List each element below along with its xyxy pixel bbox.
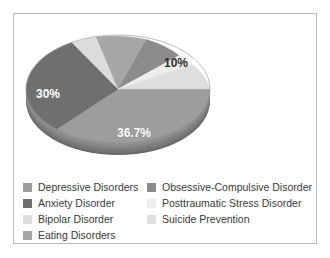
legend-item-eating-disorders[interactable]: Eating Disorders xyxy=(23,228,138,242)
legend-label: Eating Disorders xyxy=(38,230,116,241)
slice-label-anxiety-disorder: 30% xyxy=(36,87,60,101)
slice-label-depressive-disorders: 36.7% xyxy=(117,126,151,140)
legend-swatch-icon xyxy=(147,215,156,224)
legend-label: Depressive Disorders xyxy=(38,182,138,193)
legend-item-posttraumatic-stress-disorder[interactable]: Posttraumatic Stress Disorder xyxy=(147,196,312,210)
legend-swatch-icon xyxy=(23,183,32,192)
legend-swatch-icon xyxy=(147,183,156,192)
legend-label: Anxiety Disorder xyxy=(38,198,115,209)
legend-item-suicide-prevention[interactable]: Suicide Prevention xyxy=(147,212,312,226)
chart-frame: 10% 30% 36.7% Depressive Disorders Anxie… xyxy=(13,13,317,244)
legend-swatch-icon xyxy=(23,215,32,224)
legend-column-right: Obsessive-Compulsive Disorder Posttrauma… xyxy=(147,180,312,228)
legend-item-depressive-disorders[interactable]: Depressive Disorders xyxy=(23,180,138,194)
legend-column-left: Depressive Disorders Anxiety Disorder Bi… xyxy=(23,180,138,244)
pie-chart: 10% 30% 36.7% xyxy=(14,14,318,179)
legend-label: Obsessive-Compulsive Disorder xyxy=(162,182,312,193)
slice-label-suicide-prevention: 10% xyxy=(164,56,188,70)
legend-label: Posttraumatic Stress Disorder xyxy=(162,198,301,209)
chart-legend: Depressive Disorders Anxiety Disorder Bi… xyxy=(14,180,318,244)
legend-item-obsessive-compulsive-disorder[interactable]: Obsessive-Compulsive Disorder xyxy=(147,180,312,194)
legend-swatch-icon xyxy=(147,199,156,208)
legend-label: Suicide Prevention xyxy=(162,214,250,225)
legend-item-bipolar-disorder[interactable]: Bipolar Disorder xyxy=(23,212,138,226)
legend-swatch-icon xyxy=(23,231,32,240)
legend-item-anxiety-disorder[interactable]: Anxiety Disorder xyxy=(23,196,138,210)
legend-swatch-icon xyxy=(23,199,32,208)
legend-label: Bipolar Disorder xyxy=(38,214,113,225)
